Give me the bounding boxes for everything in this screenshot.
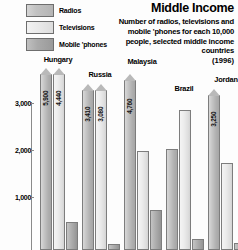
bar-hungary-radios: 5,900 <box>40 74 52 250</box>
bar-malaysia-mobile-phones <box>150 210 162 250</box>
group-label-hungary: Hungary <box>44 56 73 63</box>
bar-brazil-televisions <box>179 110 191 250</box>
chart-subtitle: Number of radios, televisions and mobile… <box>116 17 234 56</box>
bar-jordan-radios: 3,250 <box>208 95 220 250</box>
bar-value-russia-televisions: 3,080 <box>98 107 104 122</box>
mobile-phones-swatch-icon <box>26 38 54 51</box>
chart-header: Radios Televisions Mobile 'phones Middle… <box>0 0 238 56</box>
group-label-russia: Russia <box>88 71 111 78</box>
bar-group-russia: Russia 3,410 3,080 <box>80 56 120 250</box>
y-tick-label-3000: 3,000 <box>0 100 31 107</box>
group-label-malaysia: Malaysia <box>127 58 156 65</box>
legend-item-mobile-phones: Mobile 'phones <box>26 37 116 52</box>
bar-hungary-mobile-phones <box>66 222 78 250</box>
bar-hungary-televisions: 4,440 <box>53 74 65 250</box>
legend-item-radios: Radios <box>26 3 116 18</box>
bar-group-jordan: Jordan 3,250 <box>206 56 238 250</box>
bar-value-hungary-televisions: 4,440 <box>56 91 62 106</box>
y-axis-line <box>31 102 32 250</box>
chart-legend: Radios Televisions Mobile 'phones <box>26 3 116 54</box>
bar-value-malaysia-radios: 4,760 <box>127 99 133 114</box>
televisions-swatch-icon <box>26 21 54 34</box>
group-label-jordan: Jordan <box>214 76 237 83</box>
bar-group-malaysia: Malaysia 4,760 <box>122 56 162 250</box>
legend-label-radios: Radios <box>59 7 81 14</box>
legend-item-televisions: Televisions <box>26 20 116 35</box>
bar-value-hungary-radios: 5,900 <box>43 91 49 106</box>
bar-jordan-mobile-phones <box>234 243 238 250</box>
bar-russia-mobile-phones <box>108 244 120 250</box>
legend-label-televisions: Televisions <box>59 24 94 31</box>
chart-page: Radios Televisions Mobile 'phones Middle… <box>0 0 238 250</box>
bar-brazil-mobile-phones <box>192 239 204 250</box>
bar-brazil-radios <box>166 149 178 250</box>
bars-area: Hungary 5,900 4,440 Russia 3,410 3,080 <box>34 56 238 250</box>
chart-title: Middle Income <box>116 2 234 15</box>
y-tick-label-2000: 2,000 <box>0 147 31 154</box>
bar-group-brazil: Brazil <box>164 56 204 250</box>
bar-russia-televisions: 3,080 <box>95 90 107 250</box>
bar-malaysia-radios: 4,760 <box>124 80 136 250</box>
y-tick-label-1000: 1,000 <box>0 194 31 201</box>
chart-plot-area: 3,000 2,000 1,000 Hungary 5,900 4,440 <box>0 56 238 250</box>
bar-malaysia-televisions <box>137 151 149 250</box>
y-axis: 3,000 2,000 1,000 <box>0 56 34 250</box>
bar-group-hungary: Hungary 5,900 4,440 <box>38 56 78 250</box>
bar-jordan-televisions <box>221 163 233 250</box>
radios-swatch-icon <box>26 4 54 17</box>
bar-russia-radios: 3,410 <box>82 90 94 250</box>
bar-value-russia-radios: 3,410 <box>85 107 91 122</box>
group-label-brazil: Brazil <box>175 85 194 92</box>
bar-value-jordan-radios: 3,250 <box>211 112 217 127</box>
legend-label-mobile-phones: Mobile 'phones <box>59 41 107 48</box>
